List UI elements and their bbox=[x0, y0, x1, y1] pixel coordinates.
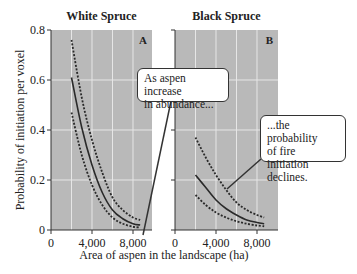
callout-2-line-1: ...the probability bbox=[267, 119, 339, 145]
y-tick-label: 0.4 bbox=[30, 123, 45, 137]
y-axis-label: Probability of initiation per voxel bbox=[13, 49, 27, 210]
callout-2-line-3: declines. bbox=[267, 171, 339, 184]
panel-a bbox=[47, 30, 152, 234]
y-tick-label: 0 bbox=[39, 223, 45, 237]
callout-aspen-increase: As aspen increase in abundance... bbox=[137, 68, 229, 102]
y-tick-label: 0.6 bbox=[30, 73, 45, 87]
y-tick-label: 0.2 bbox=[30, 173, 45, 187]
panel-title: White Spruce bbox=[66, 9, 137, 23]
panel-title: Black Spruce bbox=[192, 9, 261, 23]
callout-probability-declines: ...the probability of fire initiation de… bbox=[260, 115, 346, 162]
callout-1-line-2: in abundance... bbox=[144, 98, 222, 111]
x-tick-label: 0 bbox=[48, 236, 54, 250]
callout-1-line-1: As aspen increase bbox=[144, 72, 222, 98]
panel-label: A bbox=[139, 34, 147, 46]
panel-label: B bbox=[266, 34, 274, 46]
callout-2-line-2: of fire initiation bbox=[267, 145, 339, 171]
y-tick-label: 0.8 bbox=[30, 23, 45, 37]
x-axis-label: Area of aspen in the landscape (ha) bbox=[79, 248, 248, 262]
